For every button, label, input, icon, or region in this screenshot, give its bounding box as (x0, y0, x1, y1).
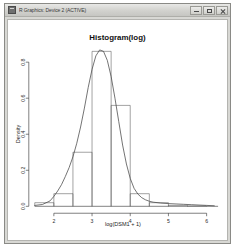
y-tick-label: 0.6 (20, 94, 26, 101)
x-tick-label: 6 (205, 218, 208, 224)
close-button[interactable] (216, 6, 228, 15)
x-axis: 23456 (52, 213, 208, 224)
density-curve (35, 50, 215, 206)
minimize-button[interactable] (190, 6, 202, 15)
histogram-bar (54, 194, 73, 207)
window-title: R Graphics: Device 2 (ACTIVE) (19, 7, 190, 14)
maximize-button[interactable] (203, 6, 215, 15)
y-tick-label: 0.8 (20, 58, 26, 65)
histogram-bar (111, 105, 130, 206)
r-graphics-icon (8, 6, 16, 14)
window-controls (190, 6, 228, 15)
histogram-plot: Histogram(log) log(DSM1 + 1) Density 0.0… (8, 20, 227, 240)
plot-title: Histogram(log) (89, 33, 146, 42)
histogram-bar (92, 51, 111, 206)
y-tick-label: 0.4 (20, 131, 26, 138)
y-tick-label: 0.0 (20, 203, 26, 210)
histogram-bar (73, 152, 92, 206)
r-graphics-window: R Graphics: Device 2 (ACTIVE) Histogram(… (4, 3, 231, 244)
density-curve-group (35, 50, 215, 206)
x-tick-label: 5 (167, 218, 170, 224)
y-tick-label: 0.2 (20, 167, 26, 174)
plot-canvas: Histogram(log) log(DSM1 + 1) Density 0.0… (7, 19, 228, 241)
y-axis: 0.00.20.40.60.8 (20, 58, 29, 209)
window-titlebar[interactable]: R Graphics: Device 2 (ACTIVE) (5, 4, 230, 17)
x-tick-label: 2 (52, 218, 55, 224)
x-tick-label: 4 (129, 218, 132, 224)
x-axis-title: log(DSM1 + 1) (105, 221, 141, 227)
x-tick-label: 3 (91, 218, 94, 224)
